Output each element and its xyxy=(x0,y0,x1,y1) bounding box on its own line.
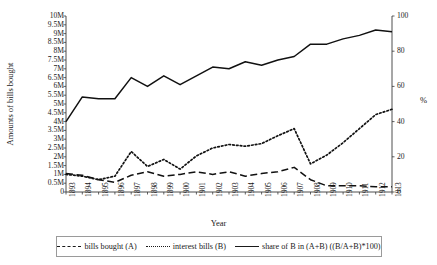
legend-label: interest bills (B) xyxy=(173,242,226,251)
legend-swatch-dashed xyxy=(57,243,81,250)
legend-item: share of B in (A+B) ((B/A+B)*100) xyxy=(235,242,381,251)
legend-swatch-solid xyxy=(235,243,259,250)
legend-label: bills bought (A) xyxy=(84,242,136,251)
series-line-dotted xyxy=(66,109,392,179)
series-line-solid xyxy=(66,30,392,122)
chart-figure: Amounts of bills bought % Year 00.5M1M1.… xyxy=(0,0,437,265)
plot-area xyxy=(0,0,437,265)
legend-swatch-dotted xyxy=(146,243,170,250)
chart-legend: bills bought (A)interest bills (B)share … xyxy=(56,236,382,257)
series-line-dashed xyxy=(66,167,392,186)
legend-item: bills bought (A) xyxy=(57,242,136,251)
legend-item: interest bills (B) xyxy=(146,242,226,251)
legend-label: share of B in (A+B) ((B/A+B)*100) xyxy=(262,242,381,251)
